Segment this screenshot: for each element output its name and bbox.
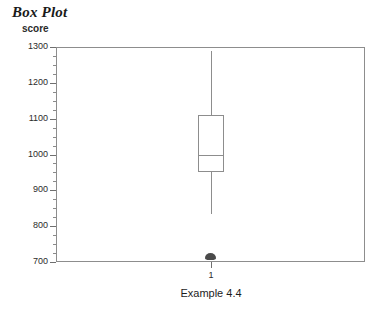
median-line <box>198 155 224 156</box>
upper-whisker <box>211 51 212 116</box>
x-tick-label: 1 <box>201 270 221 280</box>
x-axis-caption: Example 4.4 <box>131 287 291 299</box>
box-plot-figure: Box Plot score 1300120011001000900800700… <box>0 0 381 315</box>
outlier-marker <box>205 253 216 260</box>
box-plot-series <box>0 0 381 315</box>
box-iqr-rect <box>198 115 224 172</box>
x-axis-major-tick <box>211 262 212 268</box>
lower-whisker <box>211 172 212 213</box>
